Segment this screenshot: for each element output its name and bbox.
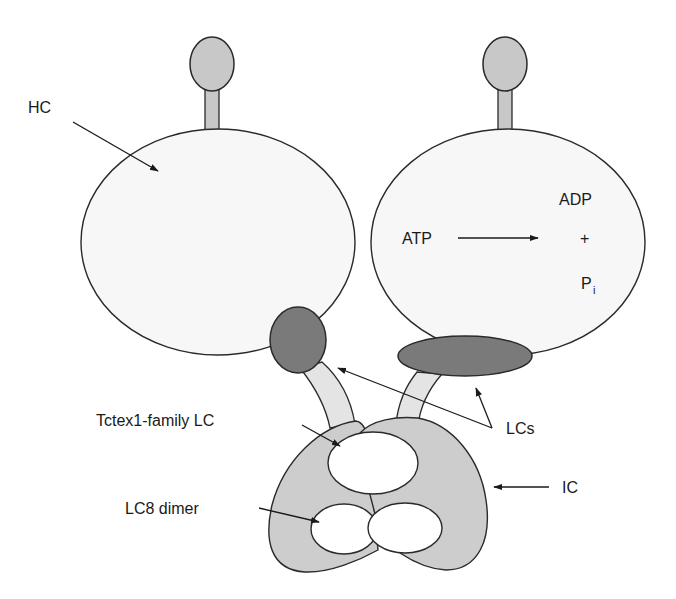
pi-subscript: i (593, 284, 595, 296)
light-chain-left (270, 307, 326, 373)
adp-label: ADP (559, 191, 592, 208)
tctex-label: Tctex1-family LC (96, 412, 214, 429)
stalk-right (483, 37, 527, 131)
stalk-stem-right (498, 88, 512, 131)
dynein-diagram: HC ATP ADP + P i Tctex1-family LC LC8 di… (0, 0, 676, 599)
lcs-label: LCs (506, 420, 534, 437)
lc8-monomer-right (368, 503, 442, 553)
stalk-left (190, 37, 234, 131)
stalk-stem-left (205, 88, 219, 131)
pi-label: P (581, 275, 592, 292)
lc8-monomer-left (311, 504, 377, 554)
lcs-arrow-right (476, 388, 492, 428)
atp-label: ATP (402, 230, 432, 247)
lc8-label: LC8 dimer (125, 500, 199, 517)
light-chain-right (398, 336, 532, 376)
stalk-head-right (483, 37, 527, 91)
hc-label: HC (28, 99, 51, 116)
ic-label: IC (562, 479, 578, 496)
plus-sign: + (580, 230, 589, 247)
tctex1-light-chain (328, 432, 418, 494)
stalk-head-left (190, 37, 234, 91)
